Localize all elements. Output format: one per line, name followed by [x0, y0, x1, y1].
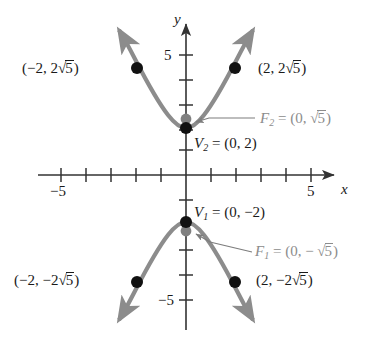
- x-tick-label-5: 5: [307, 184, 315, 199]
- y-tick-label-minus5: −5: [158, 293, 174, 308]
- focus-equation: = (0, −: [273, 243, 314, 259]
- label-vertex-1: V1 = (0, −2): [194, 205, 265, 222]
- graph-canvas: [0, 0, 388, 340]
- label-lower-left-point: (−2, −2√5): [14, 272, 79, 289]
- x-axis-name: x: [341, 182, 348, 197]
- lower-left-arrow-icon: [119, 305, 128, 320]
- label-focus-2: F2 = (0, √5): [260, 110, 331, 128]
- y-axis: [179, 24, 193, 330]
- coefficient: 2: [50, 60, 58, 76]
- focus-subscript: 2: [269, 117, 274, 128]
- paren-close: ): [301, 60, 306, 76]
- radicand: 5: [299, 272, 308, 289]
- data-point-upper-right: [229, 62, 241, 74]
- radicand: 5: [65, 60, 74, 77]
- x-value: −2,: [19, 272, 39, 288]
- x-value: −2,: [27, 60, 47, 76]
- focus-subscript: 1: [264, 250, 269, 261]
- focus-symbol: F: [255, 243, 264, 259]
- paren-close: ): [326, 110, 331, 126]
- hyperbola-figure: y x −5 5 5 −5 (−2, 2√5) (2, 2√5) (−2, −2…: [0, 0, 388, 340]
- vertex-equation: = (0, −2): [212, 204, 265, 220]
- label-upper-right-point: (2, 2√5): [258, 60, 306, 77]
- paren-close: ): [333, 243, 338, 259]
- data-point-lower-left: [131, 276, 143, 288]
- radicand: 5: [293, 60, 302, 77]
- focus-2-leader-line: [196, 118, 255, 122]
- x-value: 2,: [263, 60, 274, 76]
- radicand: 5: [66, 272, 75, 289]
- coefficient: 2: [278, 60, 286, 76]
- data-point-lower-right: [229, 276, 241, 288]
- focus-symbol: F: [260, 110, 269, 126]
- radicand: 5: [325, 243, 334, 260]
- label-upper-left-point: (−2, 2√5): [22, 60, 79, 77]
- paren-close: ): [308, 272, 313, 288]
- vertex-subscript: 1: [203, 211, 208, 222]
- vertex-symbol: V: [194, 204, 203, 220]
- coefficient: −2: [42, 272, 58, 288]
- paren-close: ): [74, 272, 79, 288]
- vertex-subscript: 2: [203, 142, 208, 153]
- upper-right-arrow-icon: [244, 30, 253, 45]
- data-point-upper-left: [131, 62, 143, 74]
- vertex-point-v2: [180, 122, 192, 134]
- label-vertex-2: V2 = (0, 2): [194, 136, 257, 153]
- x-value: 2,: [261, 272, 272, 288]
- radicand: 5: [317, 110, 326, 127]
- upper-left-arrow-icon: [119, 30, 128, 45]
- y-tick-label-5: 5: [164, 48, 172, 63]
- y-axis-name: y: [174, 12, 181, 27]
- label-lower-right-point: (2, −2√5): [256, 272, 313, 289]
- x-tick-label-minus5: −5: [50, 184, 66, 199]
- coefficient: −2: [276, 272, 292, 288]
- focus-equation: = (0,: [278, 110, 306, 126]
- vertex-symbol: V: [194, 135, 203, 151]
- lower-right-arrow-icon: [244, 305, 253, 320]
- label-focus-1: F1 = (0, − √5): [255, 243, 338, 261]
- vertex-point-v1: [180, 216, 192, 228]
- vertex-equation: = (0, 2): [212, 135, 257, 151]
- paren-close: ): [74, 60, 79, 76]
